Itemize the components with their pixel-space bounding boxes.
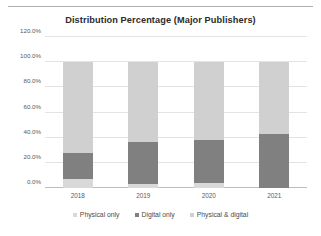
legend-label: Digital only (142, 211, 175, 218)
legend-item[interactable]: Physical & digital (190, 211, 248, 218)
x-tick-label: 2020 (176, 192, 242, 199)
stacked-bar[interactable] (63, 62, 93, 188)
y-tick-label: 60.0% (23, 102, 41, 109)
y-tick-label: 0.0% (27, 178, 41, 185)
stacked-bar[interactable] (128, 62, 158, 188)
bar-segment[interactable] (128, 184, 158, 188)
y-tick-label: 120.0% (20, 27, 41, 34)
bar-slot: 2019 (111, 37, 177, 188)
bar-slot: 2018 (45, 37, 111, 188)
bar-segment[interactable] (194, 140, 224, 183)
top-divider-rule (8, 6, 313, 7)
stacked-bar[interactable] (194, 62, 224, 188)
y-tick-label: 100.0% (20, 52, 41, 59)
x-tick-label: 2018 (45, 192, 111, 199)
legend-item[interactable]: Digital only (135, 211, 175, 218)
y-tick-label: 80.0% (23, 77, 41, 84)
bar-slot: 2021 (242, 37, 308, 188)
bar-group: 2018201920202021 (45, 37, 307, 188)
bar-segment[interactable] (63, 62, 93, 153)
y-tick-label: 20.0% (23, 152, 41, 159)
bar-segment[interactable] (194, 62, 224, 139)
legend-swatch-icon (73, 213, 77, 217)
y-tick-label: 40.0% (23, 127, 41, 134)
chart-legend: Physical onlyDigital onlyPhysical & digi… (0, 211, 321, 218)
cropped-header-remnant (60, 0, 260, 5)
plot-area: 120.0%100.0%80.0%60.0%40.0%20.0%0.0% 201… (45, 37, 307, 188)
chart-container: Distribution Percentage (Major Publisher… (0, 0, 321, 236)
legend-label: Physical & digital (197, 211, 248, 218)
bar-segment[interactable] (194, 183, 224, 188)
legend-swatch-icon (190, 213, 194, 217)
bar-segment[interactable] (259, 62, 289, 134)
bar-segment[interactable] (63, 153, 93, 179)
x-tick-label: 2021 (242, 192, 308, 199)
bar-slot: 2020 (176, 37, 242, 188)
legend-swatch-icon (135, 213, 139, 217)
x-tick-label: 2019 (111, 192, 177, 199)
stacked-bar[interactable] (259, 62, 289, 188)
bar-segment[interactable] (128, 62, 158, 142)
bar-segment[interactable] (63, 179, 93, 188)
legend-label: Physical only (80, 211, 120, 218)
bar-segment[interactable] (128, 142, 158, 184)
legend-item[interactable]: Physical only (73, 211, 120, 218)
chart-title: Distribution Percentage (Major Publisher… (0, 15, 321, 25)
bar-segment[interactable] (259, 134, 289, 188)
